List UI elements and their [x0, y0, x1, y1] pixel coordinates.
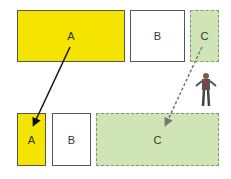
- arrows-layer: [0, 0, 231, 179]
- solid-arrow: [34, 47, 70, 124]
- person-icon: [196, 73, 216, 106]
